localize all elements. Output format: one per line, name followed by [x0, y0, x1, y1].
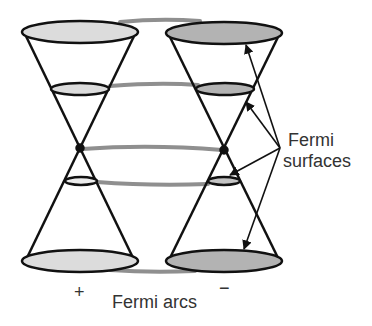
fermi-arc-top	[120, 20, 200, 22]
fermi-surfaces-label-line2: surfaces	[283, 151, 351, 171]
cone-minus-bottom-surface	[166, 250, 282, 272]
weyl-node-minus	[221, 147, 228, 154]
fermi-arc-lower	[97, 182, 208, 185]
fermi-arc-connectors	[82, 20, 222, 272]
fermi-arc-node	[82, 147, 222, 150]
fermi-arc-bottom	[110, 270, 195, 272]
arrow-to-upper-ring	[246, 102, 280, 148]
cone-plus-lower-ring	[65, 177, 97, 185]
cone-minus-top-surface	[166, 22, 282, 44]
cone-plus-bottom-surface	[22, 250, 138, 272]
fermi-surfaces-label-line1: Fermi	[288, 130, 334, 150]
chirality-plus-label: +	[74, 282, 85, 302]
cone-minus-lower-ring	[208, 177, 240, 185]
cone-plus-upper-ring	[51, 83, 109, 95]
weyl-node-plus	[77, 145, 84, 152]
fermi-arcs-label: Fermi arcs	[112, 292, 197, 312]
arrow-to-top-surface	[246, 45, 280, 148]
fermi-surface-arrows	[230, 45, 280, 249]
weyl-cone-diagram: Fermi surfaces + − Fermi arcs	[0, 0, 372, 326]
fermi-arc-upper	[110, 84, 198, 86]
chirality-minus-label: −	[219, 278, 230, 298]
cone-minus-upper-ring	[196, 83, 254, 95]
cone-plus-top-surface	[22, 21, 138, 43]
